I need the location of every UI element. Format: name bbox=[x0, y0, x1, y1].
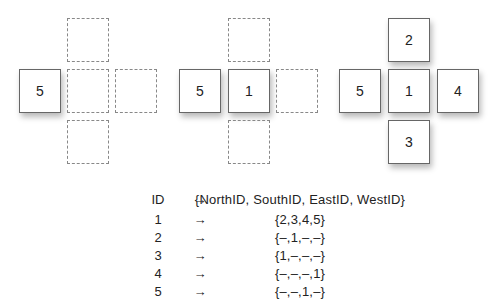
row-id: 4 bbox=[148, 266, 168, 281]
table-row: 2 → {–,1,–,–} bbox=[0, 230, 498, 248]
tile-east: 4 bbox=[437, 69, 479, 113]
row-value: {1,–,–,–} bbox=[180, 248, 420, 263]
table-row: 5 → {–,–,1,–} bbox=[0, 284, 498, 302]
row-id: 5 bbox=[148, 284, 168, 299]
tile-center: 1 bbox=[388, 69, 430, 113]
row-value: {–,–,1,–} bbox=[180, 284, 420, 299]
table-row: 1 → {2,3,4,5} bbox=[0, 212, 498, 230]
empty-slot-center bbox=[67, 69, 109, 113]
empty-slot-south bbox=[228, 120, 270, 164]
table-header: ID → {NorthID, SouthID, EastID, WestID} bbox=[0, 192, 498, 210]
row-value: {2,3,4,5} bbox=[180, 212, 420, 227]
empty-slot-north bbox=[228, 18, 270, 62]
tile-south: 3 bbox=[388, 120, 430, 164]
tile-center: 1 bbox=[228, 69, 270, 113]
empty-slot-south bbox=[67, 120, 109, 164]
tile-west: 5 bbox=[179, 69, 221, 113]
row-value: {–,–,–,1} bbox=[180, 266, 420, 281]
tile-north: 2 bbox=[388, 18, 430, 62]
header-value: {NorthID, SouthID, EastID, WestID} bbox=[180, 192, 420, 207]
empty-slot-east bbox=[276, 69, 318, 113]
tile-west: 5 bbox=[19, 69, 61, 113]
empty-slot-east bbox=[115, 69, 157, 113]
row-value: {–,1,–,–} bbox=[180, 230, 420, 245]
header-id: ID bbox=[148, 192, 168, 207]
row-id: 3 bbox=[148, 248, 168, 263]
tile-west: 5 bbox=[339, 69, 381, 113]
row-id: 1 bbox=[148, 212, 168, 227]
table-row: 3 → {1,–,–,–} bbox=[0, 248, 498, 266]
empty-slot-north bbox=[67, 18, 109, 62]
table-row: 4 → {–,–,–,1} bbox=[0, 266, 498, 284]
row-id: 2 bbox=[148, 230, 168, 245]
